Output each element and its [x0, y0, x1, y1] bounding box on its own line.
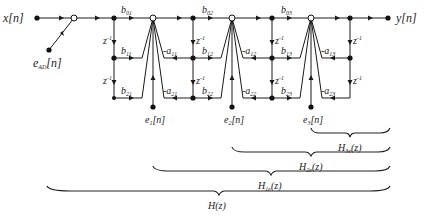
adc-noise-label: eAD[n]	[33, 56, 62, 70]
svg-text:-a11: -a11	[163, 45, 177, 57]
section-3: z-1 z-1 b03 b13 b23 e3[n] -a13 -a23	[269, 4, 350, 126]
section-1: z-1 z-1 b01 b11 b21 e1[n] -a11 -a21	[102, 4, 193, 126]
input-node	[34, 15, 39, 20]
svg-text:-a13: -a13	[321, 45, 335, 57]
error-label-e2: e2[n]	[224, 114, 244, 126]
section-2: z-1 z-1 b02 b12 b22 e2[n] -a12 -a22	[190, 4, 272, 126]
transfer-function-braces: H3e(z) H2e(z) H1e(z) H(z)	[47, 128, 390, 212]
svg-text:b01: b01	[121, 4, 132, 16]
error-label-e3: e3[n]	[303, 114, 323, 126]
svg-text:b12: b12	[202, 45, 213, 57]
svg-text:b23: b23	[281, 85, 292, 97]
input-label: x[n]	[2, 11, 24, 25]
svg-text:-a21: -a21	[163, 85, 177, 97]
delay-label: z-1	[102, 75, 112, 86]
output-label: y[n]	[395, 11, 417, 25]
output-node	[385, 15, 390, 20]
svg-text:b11: b11	[121, 45, 132, 57]
sum-node-1	[150, 15, 156, 21]
h-label: H(z)	[207, 200, 226, 212]
svg-text:b03: b03	[281, 4, 292, 16]
svg-text:-a12: -a12	[242, 45, 256, 57]
svg-text:-a22: -a22	[242, 85, 256, 97]
svg-text:b02: b02	[202, 4, 213, 16]
svg-text:z-1: z-1	[352, 35, 362, 46]
svg-text:b22: b22	[202, 85, 213, 97]
sum-node-2	[229, 15, 235, 21]
signal-flow-diagram: x[n] eAD[n] z-1 z-1 b01 b11 b21 e1[n]	[0, 0, 426, 217]
sum-node-3	[308, 15, 314, 21]
delay-label: z-1	[102, 35, 112, 46]
output-delay-column: z-1 z-1	[347, 15, 362, 98]
svg-text:b13: b13	[281, 45, 292, 57]
adc-noise-source: eAD[n]	[33, 18, 74, 70]
h1e-label: H1e(z)	[257, 180, 282, 192]
error-label-e1: e1[n]	[145, 114, 165, 126]
adc-sum-node	[71, 15, 77, 21]
svg-text:z-1: z-1	[352, 75, 362, 86]
svg-text:-a23: -a23	[321, 85, 335, 97]
svg-text:b21: b21	[121, 85, 132, 97]
main-signal-path	[37, 16, 388, 21]
